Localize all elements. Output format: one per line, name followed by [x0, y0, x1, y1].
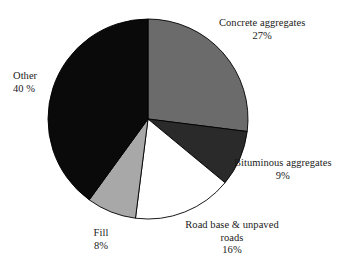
- slice-label-bituminous-aggregates-name: Bituminous aggregates: [234, 157, 332, 170]
- slice-label-concrete-aggregates-name: Concrete aggregates: [219, 17, 305, 30]
- slice-label-road-base-unpaved-roads: Road base & unpaved roads 16%: [181, 219, 283, 257]
- slice-label-road-base-unpaved-roads-name: Road base & unpaved roads: [181, 219, 283, 244]
- slice-label-bituminous-aggregates-value: 9%: [234, 170, 332, 183]
- slice-label-concrete-aggregates: Concrete aggregates 27%: [219, 17, 305, 42]
- slice-label-other-value: 40 %: [13, 83, 37, 96]
- slice-label-concrete-aggregates-value: 27%: [219, 30, 305, 43]
- slice-label-bituminous-aggregates: Bituminous aggregates 9%: [234, 157, 332, 182]
- slice-label-fill: Fill 8%: [84, 227, 118, 252]
- pie-slice-group: [48, 19, 248, 219]
- pie-chart: Concrete aggregates 27% Bituminous aggre…: [0, 0, 362, 270]
- slice-label-other: Other 40 %: [13, 70, 37, 95]
- slice-label-fill-name: Fill: [84, 227, 118, 240]
- slice-label-fill-value: 8%: [84, 240, 118, 253]
- slice-label-other-name: Other: [13, 70, 37, 83]
- slice-label-road-base-unpaved-roads-value: 16%: [181, 244, 283, 257]
